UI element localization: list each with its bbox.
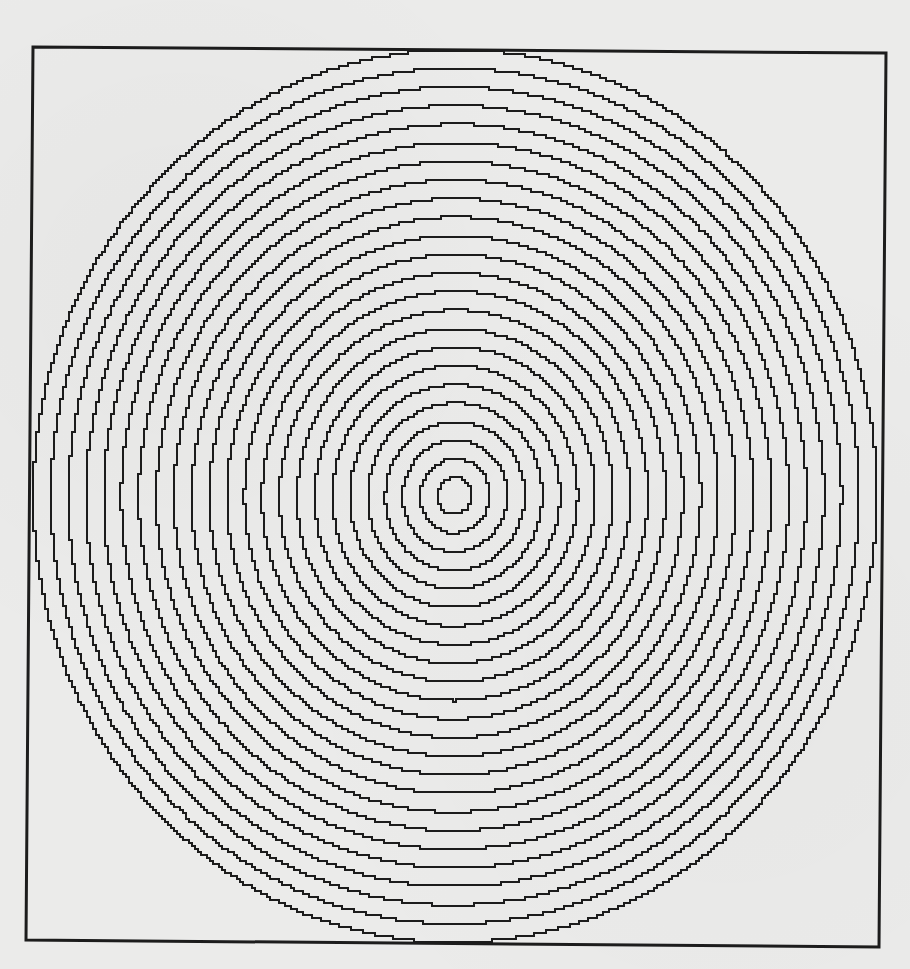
rings-group [33, 51, 876, 942]
ring-2 [420, 459, 489, 534]
ring-12 [243, 273, 666, 720]
concentric-rings-figure [0, 0, 910, 969]
ring-4 [384, 423, 525, 570]
ring-19 [120, 144, 789, 849]
ring-8 [315, 348, 594, 645]
ring-3 [402, 441, 507, 552]
ring-9 [297, 330, 612, 663]
ring-11 [261, 291, 648, 702]
ring-21 [87, 105, 825, 885]
ring-18 [138, 162, 771, 831]
ring-17 [156, 180, 753, 813]
ring-22 [69, 87, 843, 906]
scanned-printout [0, 0, 910, 969]
ring-1 [438, 477, 471, 513]
ring-14 [210, 237, 702, 756]
ring-5 [369, 402, 543, 588]
ring-6 [351, 384, 561, 606]
ring-15 [192, 216, 717, 774]
ring-24 [33, 51, 876, 942]
